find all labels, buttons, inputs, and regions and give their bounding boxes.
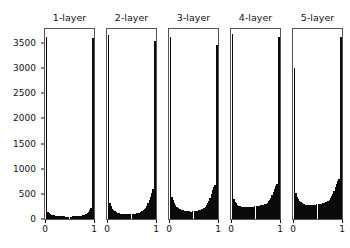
x-tick-label: 0 [290,224,296,234]
y-tick-label: 3000 [4,63,36,73]
histogram-edge-spike [46,37,48,220]
x-tick-label: 1 [91,224,97,234]
panel-title-5: 5-layer [301,12,334,23]
histogram-edge-spike [92,38,94,219]
histogram-panel-2 [106,28,157,220]
panel-title-3: 3-layer [177,12,210,23]
histogram-figure: 0500100015002000250030003500 1-layer012-… [0,0,350,248]
x-tick-label: 0 [104,224,110,234]
y-tick-label: 2500 [4,88,36,98]
histogram-edge-spike [154,41,156,219]
panel-title-1: 1-layer [53,12,86,23]
x-tick-mark [94,220,95,223]
histogram-panel-3 [168,28,219,220]
x-tick-mark [107,220,108,223]
x-tick-mark [342,220,343,223]
y-tick-label: 0 [4,214,36,224]
histogram-edge-spike [232,34,234,219]
x-tick-mark [156,220,157,223]
panel-title-4: 4-layer [239,12,272,23]
histogram-panel-1 [44,28,95,220]
y-tick-label: 2000 [4,113,36,123]
y-tick-label: 500 [4,189,36,199]
histogram-edge-spike [278,37,280,219]
histogram-panel-5 [292,28,343,220]
y-tick-label: 1000 [4,164,36,174]
x-tick-mark [293,220,294,223]
x-tick-label: 1 [215,224,221,234]
x-tick-label: 0 [42,224,48,234]
histogram-edge-spike [108,35,110,219]
histogram-panel-4 [230,28,281,220]
x-tick-label: 0 [166,224,172,234]
y-tick-label: 1500 [4,139,36,149]
x-tick-label: 1 [277,224,283,234]
x-tick-mark [280,220,281,223]
histogram-edge-spike [340,37,342,219]
x-tick-mark [45,220,46,223]
x-tick-mark [169,220,170,223]
panel-title-2: 2-layer [115,12,148,23]
histogram-edge-spike [216,45,218,219]
x-tick-mark [218,220,219,223]
x-tick-label: 1 [339,224,345,234]
x-tick-label: 0 [228,224,234,234]
y-tick-label: 3500 [4,38,36,48]
x-tick-mark [231,220,232,223]
x-tick-label: 1 [153,224,159,234]
